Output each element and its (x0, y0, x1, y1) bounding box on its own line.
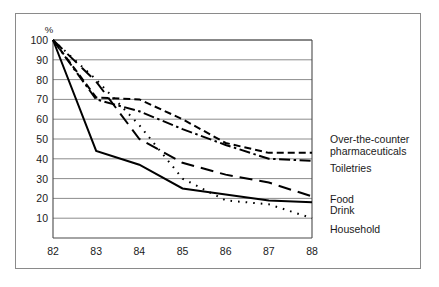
legend-label-otc-line1: Over-the-counter (330, 133, 410, 145)
y-tick-label-40: 40 (36, 153, 48, 165)
y-tick-label-50: 50 (36, 133, 48, 145)
legend-label-otc-line2: pharmaceuticals (330, 145, 406, 157)
y-tick-label-20: 20 (36, 192, 48, 204)
series-line-drink (53, 40, 312, 202)
legend-label-toiletries: Toiletries (330, 162, 371, 174)
y-tick-label-60: 60 (36, 113, 48, 125)
series-line-food (53, 40, 312, 196)
x-tick-label-84: 84 (133, 245, 145, 257)
y-tick-label-80: 80 (36, 74, 48, 86)
x-tick-label-85: 85 (177, 245, 189, 257)
y-axis-unit-label: % (45, 24, 54, 35)
legend-label-drink: Drink (330, 204, 355, 216)
x-tick-label-88: 88 (306, 245, 318, 257)
series-group (53, 40, 312, 218)
line-chart-canvas: 100908070605040302010 % 82838485868788 O… (0, 0, 439, 287)
series-line-over-the-counter-pharmaceuticals (53, 40, 312, 153)
x-axis-labels: 82838485868788 (47, 245, 318, 257)
y-tick-label-90: 90 (36, 54, 48, 66)
legend-group: Over-the-counter pharmaceuticals Toiletr… (330, 133, 410, 235)
y-tick-label-70: 70 (36, 93, 48, 105)
x-tick-label-87: 87 (263, 245, 275, 257)
series-line-toiletries (53, 40, 312, 161)
chart-figure: 100908070605040302010 % 82838485868788 O… (0, 0, 439, 287)
x-tick-label-82: 82 (47, 245, 59, 257)
y-tick-label-10: 10 (36, 212, 48, 224)
legend-label-household: Household (330, 223, 380, 235)
x-tick-label-86: 86 (220, 245, 232, 257)
x-tick-label-83: 83 (90, 245, 102, 257)
y-tick-label-30: 30 (36, 173, 48, 185)
y-axis-labels: 100908070605040302010 (30, 34, 48, 224)
y-tick-label-100: 100 (30, 34, 48, 46)
